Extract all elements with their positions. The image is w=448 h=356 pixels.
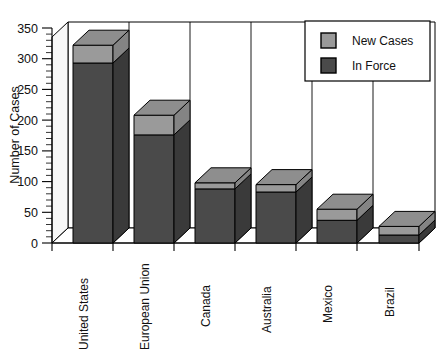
bar-in-force-front-canada bbox=[195, 189, 235, 243]
cat-label-european-union: European Union bbox=[138, 263, 152, 350]
bar-group-mexico[interactable] bbox=[317, 194, 373, 243]
bar-in-force-front-us bbox=[73, 63, 113, 243]
bar-group-canada[interactable] bbox=[195, 168, 251, 243]
bar-in-force-front-mexico bbox=[317, 220, 357, 243]
bar-new-cases-front-brazil bbox=[379, 226, 419, 235]
cat-label-united-states: United States bbox=[77, 278, 91, 350]
legend-swatch-in-force bbox=[321, 58, 336, 73]
x-axis-labels: United States European Union Canada Aust… bbox=[77, 263, 397, 350]
y-tick-label-0: 0 bbox=[31, 237, 38, 251]
bar-in-force-side-us bbox=[113, 48, 129, 243]
legend-item-in-force[interactable]: In Force bbox=[321, 58, 396, 73]
bar-in-force-front-eu bbox=[134, 135, 174, 243]
bar-group-australia[interactable] bbox=[256, 170, 312, 243]
bar-group-european-union[interactable] bbox=[134, 100, 190, 243]
legend-label-in-force: In Force bbox=[352, 59, 396, 73]
bar-in-force-side-eu bbox=[174, 120, 190, 243]
x-axis bbox=[52, 243, 419, 251]
y-minor-ticks bbox=[46, 34, 52, 237]
cat-label-mexico: Mexico bbox=[321, 285, 335, 323]
legend[interactable]: New Cases In Force bbox=[305, 21, 430, 81]
bar-in-force-front-australia bbox=[256, 192, 296, 243]
legend-item-new-cases[interactable]: New Cases bbox=[321, 33, 413, 48]
y-axis: 350 300 250 200 150 100 50 0 Number of C… bbox=[8, 22, 52, 251]
bar-group-united-states[interactable] bbox=[73, 30, 129, 243]
bar-chart: 350 300 250 200 150 100 50 0 Number of C… bbox=[0, 0, 448, 356]
bar-new-cases-front-mexico bbox=[317, 209, 357, 220]
chart-svg: 350 300 250 200 150 100 50 0 Number of C… bbox=[0, 0, 448, 356]
left-depth-wall bbox=[52, 22, 68, 243]
bar-new-cases-front-canada bbox=[195, 183, 235, 189]
bar-in-force-front-brazil bbox=[379, 235, 419, 243]
y-tick-label-50: 50 bbox=[24, 206, 38, 220]
cat-label-canada: Canada bbox=[199, 285, 213, 327]
bar-new-cases-front-us bbox=[73, 45, 113, 63]
y-tick-label-300: 300 bbox=[17, 52, 38, 66]
bar-new-cases-front-australia bbox=[256, 185, 296, 192]
x-axis-ticks bbox=[52, 243, 419, 251]
cat-label-australia: Australia bbox=[260, 286, 274, 333]
y-tick-label-350: 350 bbox=[17, 22, 38, 36]
cat-label-brazil: Brazil bbox=[383, 287, 397, 317]
legend-swatch-new-cases bbox=[321, 33, 336, 48]
y-axis-title: Number of Cases bbox=[8, 86, 22, 183]
legend-label-new-cases: New Cases bbox=[352, 34, 413, 48]
bar-new-cases-front-eu bbox=[134, 115, 174, 135]
